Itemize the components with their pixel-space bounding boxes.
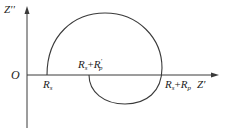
y-axis-label: Z'' [4,4,15,15]
label-rs-plus-rp: Rs+Rp [165,79,191,92]
label-rs-plus-rp-prime: Rs+R′p [78,58,102,72]
diagram-graphics [0,0,228,137]
label-rs: Rs [43,79,52,92]
origin-label: O [11,69,20,81]
x-axis-arrow-icon [211,73,219,78]
y-axis-arrow-icon [25,6,30,14]
impedance-diagram: Z'' Z' O Rs Rs+R′p Rs+Rp [0,0,228,137]
impedance-curve [47,13,162,104]
x-axis-label: Z' [197,79,205,90]
